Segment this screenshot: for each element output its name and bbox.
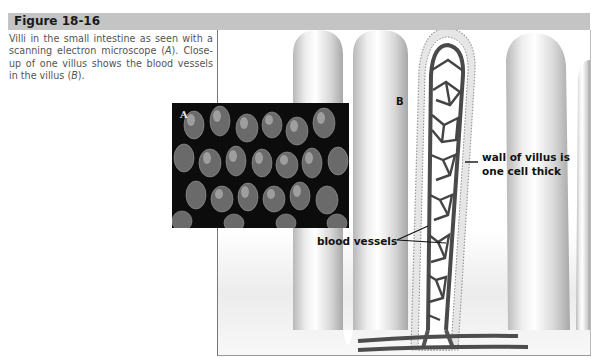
wall-of-villus-callout: wall of villus is one cell thick [482,150,570,178]
sem-micrograph: A [172,103,349,228]
caption-ref-a: A [165,45,172,56]
callout-text: wall of villus is [482,150,570,164]
figure-number: Figure 18-16 [14,12,100,31]
panel-a-label: A [180,109,188,120]
blood-vessels-callout: blood vessels [317,234,397,248]
callout-text: one cell thick [482,164,570,178]
caption-text: ). [78,70,85,81]
figure-caption: Villi in the small intestine as seen wit… [9,33,213,83]
villi-sem-image [172,103,349,228]
panel-b-label: B [396,96,404,107]
caption-ref-b: B [71,70,78,81]
